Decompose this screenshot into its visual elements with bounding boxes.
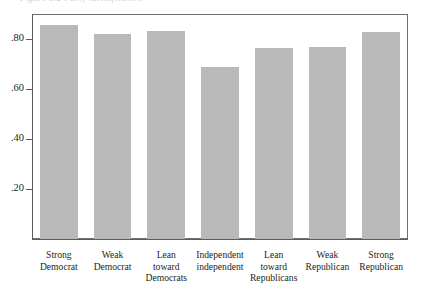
y-axis-tick <box>26 189 33 190</box>
clipped-figure-title: Figure 5.2 Party identification <box>20 0 200 3</box>
x-axis-category-label-line: Strong <box>32 249 86 261</box>
x-axis-category-label-line: Democrat <box>86 261 140 273</box>
bar <box>201 67 239 239</box>
bar <box>40 25 78 239</box>
bar <box>309 47 347 240</box>
x-axis-category-label-line: Republican <box>301 261 355 273</box>
y-axis-tick-label: .40 <box>0 133 24 144</box>
x-axis-category-label: Independentindependent <box>193 249 247 272</box>
x-axis-category-label-line: Republicans <box>247 272 301 284</box>
y-axis-line <box>32 14 33 240</box>
x-axis-category-label-line: Weak <box>86 249 140 261</box>
y-axis-tick-label-text: .60 <box>0 83 24 94</box>
x-axis-category-label-line: Lean <box>247 249 301 261</box>
x-axis-category-label: StrongDemocrat <box>32 249 86 272</box>
x-axis-category-label: StrongRepublican <box>354 249 408 272</box>
x-axis-category-label: LeantowardDemocrats <box>139 249 193 284</box>
x-axis-category-label-line: Republican <box>354 261 408 273</box>
x-axis-category-label-line: toward <box>139 261 193 273</box>
y-axis-tick <box>26 139 33 140</box>
bar <box>147 31 185 239</box>
y-axis-tick-label: .60 <box>0 83 24 94</box>
y-axis-tick-label-text: .20 <box>0 183 24 194</box>
y-axis-tick <box>26 89 33 90</box>
y-axis-tick-label: .20 <box>0 183 24 194</box>
x-axis-category-label-line: toward <box>247 261 301 273</box>
x-axis-category-label: LeantowardRepublicans <box>247 249 301 284</box>
y-axis-tick-label-text: .80 <box>0 33 24 44</box>
bar-chart-figure: Figure 5.2 Party identification .80.60.4… <box>0 0 427 299</box>
x-axis-category-label-line: Democrat <box>32 261 86 273</box>
x-axis-category-label: WeakRepublican <box>301 249 355 272</box>
x-axis-line <box>32 239 408 240</box>
x-axis-category-label-line: Democrats <box>139 272 193 284</box>
x-axis-category-label-line: independent <box>193 261 247 273</box>
bar <box>94 34 132 239</box>
y-axis-tick-label-text: .40 <box>0 133 24 144</box>
x-axis-category-label-line: Strong <box>354 249 408 261</box>
x-axis-category-label: WeakDemocrat <box>86 249 140 272</box>
y-axis-tick-label: .80 <box>0 33 24 44</box>
y-axis-tick <box>26 39 33 40</box>
bar <box>362 32 400 240</box>
x-axis-category-label-line: Lean <box>139 249 193 261</box>
bar <box>255 48 293 239</box>
x-axis-category-label-line: Weak <box>301 249 355 261</box>
x-axis-category-label-line: Independent <box>193 249 247 261</box>
